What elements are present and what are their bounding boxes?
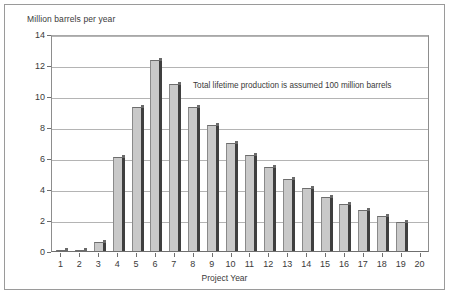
gridline (52, 222, 428, 223)
y-axis-tick-label: 10 (21, 92, 45, 102)
x-axis-tick-mark (155, 253, 156, 257)
x-axis-tick-mark (306, 253, 307, 257)
bar-side-shading (273, 167, 276, 251)
bar-side-shading (159, 60, 162, 251)
y-axis-tick-label: 0 (21, 247, 45, 257)
chart-figure: Million barrels per year 02468101214 123… (4, 4, 445, 290)
bar (150, 60, 159, 251)
bar-top-shading (273, 165, 276, 168)
x-axis-tick-label: 13 (277, 259, 297, 269)
gridline (52, 98, 428, 99)
y-axis-tick-label: 2 (21, 216, 45, 226)
bar (283, 179, 292, 251)
bar-side-shading (386, 216, 389, 251)
y-axis-tick-label: 14 (21, 30, 45, 40)
x-axis-tick-label: 4 (107, 259, 127, 269)
bar-side-shading (330, 197, 333, 251)
x-axis-tick-label: 2 (69, 259, 89, 269)
plot-area (51, 35, 429, 252)
bar (113, 157, 122, 251)
bar-side-shading (348, 204, 351, 251)
x-axis-tick-mark (420, 253, 421, 257)
y-axis-title: Million barrels per year (27, 14, 115, 24)
x-axis-tick-mark (401, 253, 402, 257)
bar-side-shading (178, 84, 181, 251)
x-axis-tick-mark (79, 253, 80, 257)
gridline (52, 160, 428, 161)
bar-top-shading (330, 195, 333, 198)
bar (56, 250, 65, 251)
x-axis-tick-mark (249, 253, 250, 257)
x-axis-tick-label: 18 (372, 259, 392, 269)
bar-top-shading (122, 155, 125, 158)
bar-top-shading (159, 58, 162, 61)
x-axis-tick-label: 12 (258, 259, 278, 269)
x-axis-tick-label: 6 (145, 259, 165, 269)
bar-side-shading (103, 242, 106, 251)
bar (302, 188, 311, 251)
bar-top-shading (235, 141, 238, 144)
bar-top-shading (216, 123, 219, 126)
x-axis-tick-mark (325, 253, 326, 257)
gridline (52, 129, 428, 130)
x-axis-tick-mark (193, 253, 194, 257)
y-axis-tick-label: 8 (21, 123, 45, 133)
bar-side-shading (311, 188, 314, 251)
bar-top-shading (367, 208, 370, 211)
y-axis-tick-label: 4 (21, 185, 45, 195)
bar-top-shading (103, 240, 106, 243)
x-axis-tick-label: 16 (334, 259, 354, 269)
x-axis-tick-label: 15 (315, 259, 335, 269)
x-axis-tick-label: 14 (296, 259, 316, 269)
gridline (52, 191, 428, 192)
x-axis-tick-mark (231, 253, 232, 257)
x-axis-tick-label: 10 (221, 259, 241, 269)
bar-top-shading (311, 186, 314, 189)
y-axis-tick-label: 12 (21, 61, 45, 71)
y-axis-tick-mark (47, 252, 51, 253)
x-axis-tick-mark (98, 253, 99, 257)
x-axis-tick-mark (287, 253, 288, 257)
bar (188, 107, 197, 251)
x-axis-tick-label: 17 (353, 259, 373, 269)
bar-top-shading (65, 248, 68, 251)
bar (94, 242, 103, 251)
bar-top-shading (178, 82, 181, 85)
x-axis-title: Project Year (5, 273, 444, 283)
bar-side-shading (292, 179, 295, 251)
bar (321, 197, 330, 251)
bar-side-shading (141, 107, 144, 251)
x-axis-tick-label: 20 (410, 259, 430, 269)
bar-top-shading (84, 248, 87, 251)
x-axis-tick-mark (212, 253, 213, 257)
x-axis-tick-label: 3 (88, 259, 108, 269)
bar (226, 143, 235, 252)
bar (75, 250, 84, 251)
bar (377, 216, 386, 251)
bar-side-shading (197, 107, 200, 251)
bar (245, 155, 254, 251)
bar-side-shading (405, 222, 408, 251)
bar (358, 210, 367, 251)
bar-top-shading (405, 220, 408, 223)
x-axis-tick-label: 9 (202, 259, 222, 269)
bar-side-shading (235, 143, 238, 252)
bar (207, 125, 216, 251)
bar-top-shading (386, 214, 389, 217)
x-axis-tick-label: 7 (164, 259, 184, 269)
bar-side-shading (216, 125, 219, 251)
x-axis-tick-mark (363, 253, 364, 257)
bar-side-shading (122, 157, 125, 251)
bar (396, 222, 405, 251)
x-axis-tick-mark (60, 253, 61, 257)
bar-side-shading (367, 210, 370, 251)
gridline (52, 36, 428, 37)
y-axis-tick-label: 6 (21, 154, 45, 164)
x-axis-tick-mark (136, 253, 137, 257)
bar-side-shading (254, 155, 257, 251)
x-axis-tick-mark (344, 253, 345, 257)
bar-top-shading (254, 153, 257, 156)
bar-top-shading (197, 105, 200, 108)
bar-top-shading (348, 202, 351, 205)
x-axis-tick-label: 19 (391, 259, 411, 269)
